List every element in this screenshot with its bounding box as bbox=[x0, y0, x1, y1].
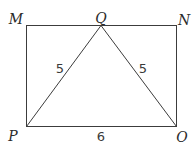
point-label-n: N bbox=[178, 13, 190, 27]
point-label-m: M bbox=[9, 12, 23, 26]
geometry-figure: M Q N P O 5 5 6 bbox=[0, 0, 196, 149]
length-label-po: 6 bbox=[97, 130, 105, 143]
point-label-p: P bbox=[8, 129, 17, 143]
length-label-qo: 5 bbox=[139, 62, 147, 75]
point-label-o: O bbox=[176, 130, 187, 144]
point-label-q: Q bbox=[95, 11, 106, 25]
rectangle-mnop bbox=[27, 26, 177, 127]
segment-pq bbox=[27, 26, 102, 127]
length-label-pq: 5 bbox=[56, 62, 64, 75]
segment-qo bbox=[101, 26, 177, 127]
